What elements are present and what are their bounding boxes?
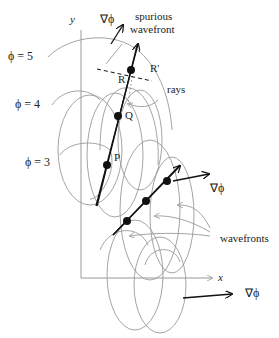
- axes: [81, 30, 212, 278]
- level-label-phi5: ϕ = 5: [8, 50, 33, 62]
- wavefront-diagram: [0, 0, 279, 338]
- wavefront-curves: [48, 38, 210, 333]
- point-label-R-prime: R': [150, 63, 159, 74]
- point-label-Q: Q: [125, 110, 133, 121]
- gradient-label-middle: ∇ϕ: [210, 182, 224, 194]
- spurious-label-line1: spurious: [135, 11, 172, 22]
- point-label-R: R: [118, 74, 125, 85]
- point-lower-1: [142, 197, 150, 205]
- ray-lines: [97, 46, 180, 235]
- point-Q: [114, 112, 122, 120]
- level-label-phi3: ϕ = 3: [25, 156, 50, 168]
- x-axis-label: x: [218, 272, 223, 283]
- point-label-P: P: [114, 152, 120, 163]
- gradient-label-bottom: ∇ϕ: [245, 287, 259, 299]
- point-R: [127, 66, 135, 74]
- gradient-label-top: ∇ϕ: [100, 13, 114, 25]
- rays-label: rays: [167, 84, 185, 95]
- point-lower-3: [163, 177, 171, 185]
- point-P: [103, 161, 111, 169]
- point-lower-2: [123, 217, 131, 225]
- level-label-phi4: ϕ = 4: [15, 98, 40, 110]
- spurious-label-line2: wavefront: [130, 24, 175, 35]
- wavefronts-label: wavefronts: [220, 233, 269, 244]
- y-axis-label: y: [70, 14, 75, 25]
- points: [103, 66, 171, 225]
